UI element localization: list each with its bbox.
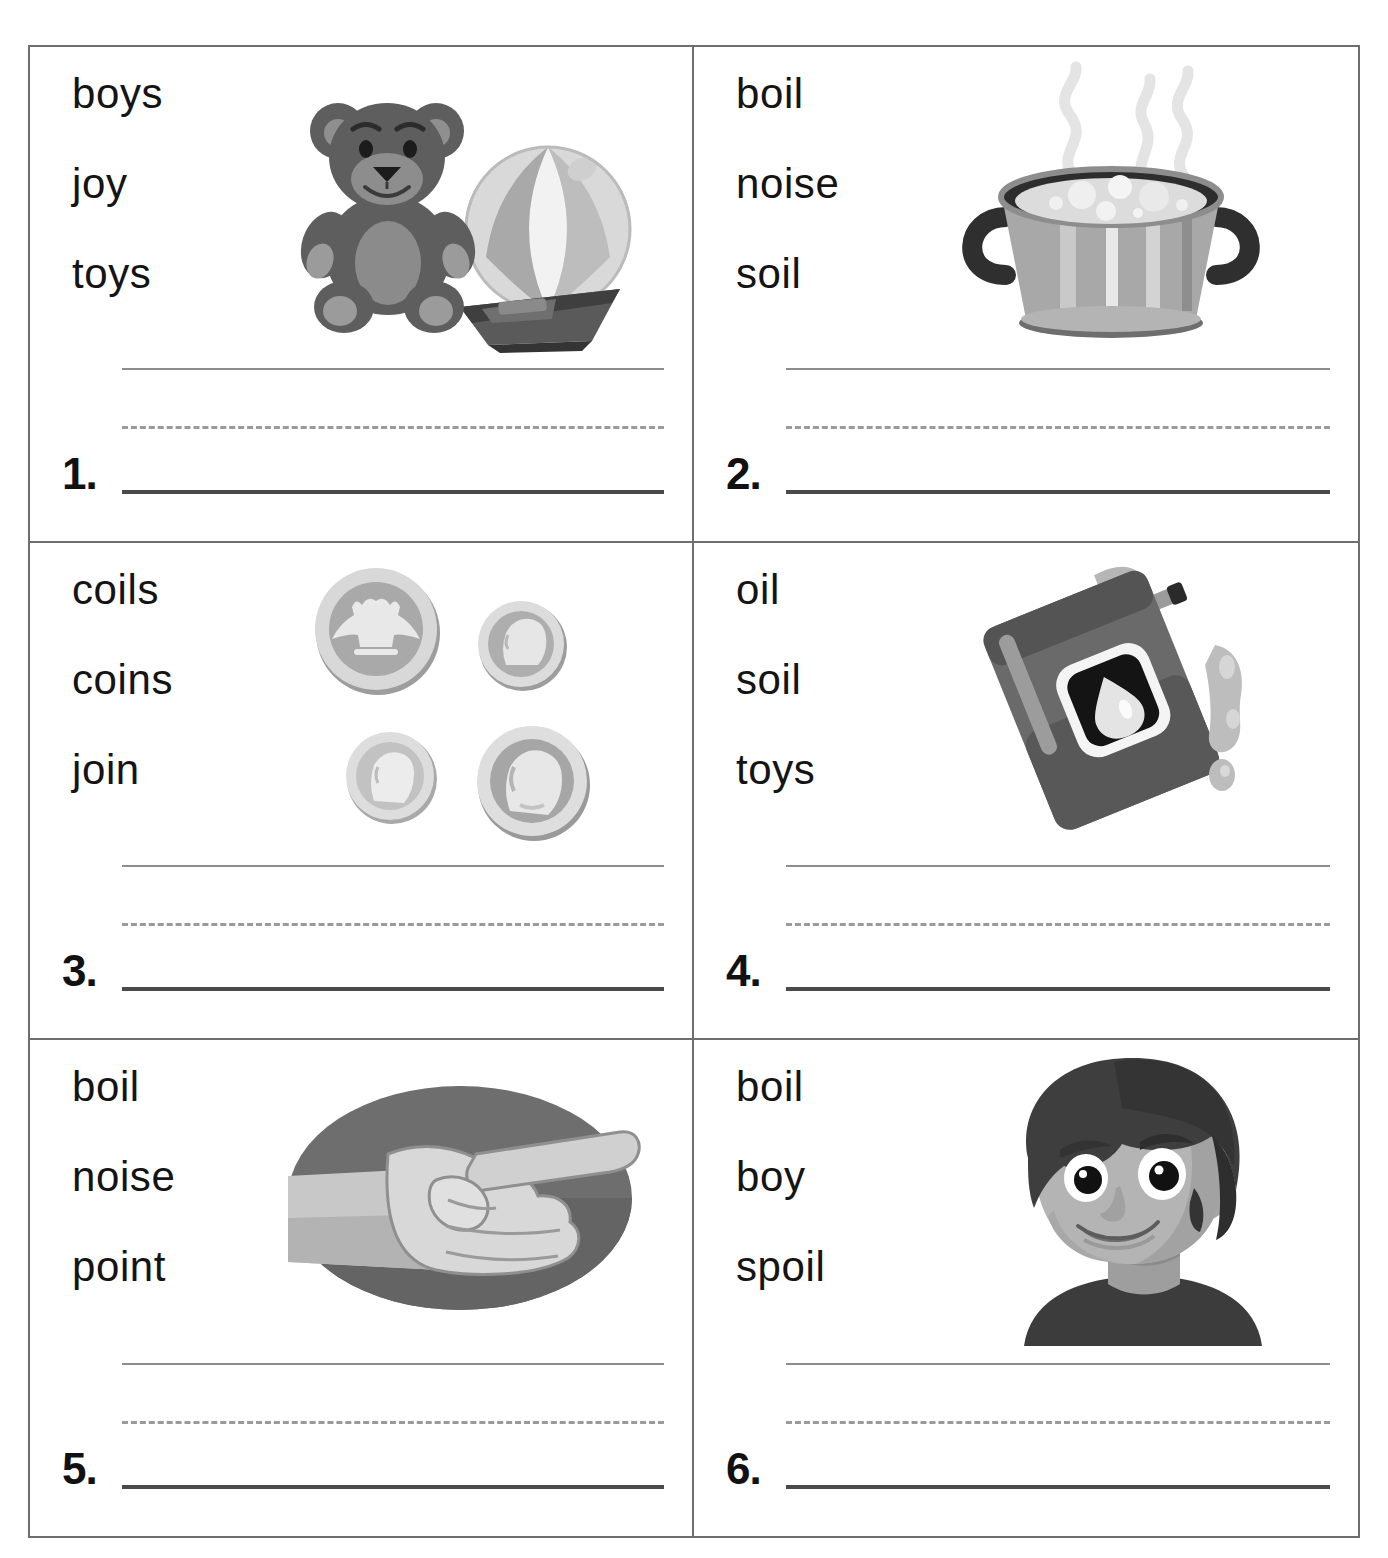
dashed-guide-line	[122, 426, 664, 429]
word-option[interactable]: boil	[736, 1066, 946, 1128]
question-number: 6.	[726, 1447, 761, 1491]
oil-can-illustration	[924, 553, 1338, 853]
word-option[interactable]: toys	[736, 749, 946, 811]
writing-lines-2: 2.	[786, 368, 1330, 523]
word-option[interactable]: toys	[72, 253, 282, 315]
dashed-guide-line	[122, 1421, 664, 1424]
question-number: 3.	[62, 949, 97, 993]
worksheet-cell-2: boil noise soil	[694, 47, 1358, 543]
answer-line[interactable]	[786, 1485, 1330, 1489]
worksheet-cell-6: boil boy spoil	[694, 1040, 1358, 1536]
answer-line[interactable]	[122, 1485, 664, 1489]
worksheet-cell-5: boil noise point	[30, 1040, 694, 1536]
answer-line[interactable]	[786, 490, 1330, 494]
word-option[interactable]: coils	[72, 569, 282, 631]
dashed-guide-line	[786, 1421, 1330, 1424]
word-choice-list-5: boil noise point	[72, 1066, 282, 1308]
answer-line[interactable]	[786, 987, 1330, 991]
top-guide-line	[122, 865, 664, 867]
dashed-guide-line	[122, 923, 664, 926]
question-number: 1.	[62, 452, 97, 496]
pointing-hand-illustration	[260, 1050, 672, 1350]
top-guide-line	[786, 368, 1330, 370]
top-guide-line	[786, 865, 1330, 867]
writing-lines-5: 5.	[122, 1363, 664, 1518]
answer-line[interactable]	[122, 490, 664, 494]
word-option[interactable]: boy	[736, 1156, 946, 1218]
word-option[interactable]: join	[72, 749, 282, 811]
teddy-bear-ball-boat-illustration	[260, 57, 672, 357]
writing-lines-4: 4.	[786, 865, 1330, 1020]
word-choice-list-6: boil boy spoil	[736, 1066, 946, 1308]
question-number: 4.	[726, 949, 761, 993]
dashed-guide-line	[786, 923, 1330, 926]
top-guide-line	[786, 1363, 1330, 1365]
question-number: 5.	[62, 1447, 97, 1491]
word-option[interactable]: joy	[72, 163, 282, 225]
word-option[interactable]: point	[72, 1246, 282, 1308]
writing-lines-1: 1.	[122, 368, 664, 523]
worksheet-cell-3: coils coins join	[30, 543, 694, 1039]
word-choice-list-4: oil soil toys	[736, 569, 946, 811]
answer-line[interactable]	[122, 987, 664, 991]
word-option[interactable]: noise	[72, 1156, 282, 1218]
top-guide-line	[122, 1363, 664, 1365]
writing-lines-3: 3.	[122, 865, 664, 1020]
word-choice-list-3: coils coins join	[72, 569, 282, 811]
word-option[interactable]: boys	[72, 73, 282, 135]
word-option[interactable]: coins	[72, 659, 282, 721]
worksheet-grid: boys joy toys	[28, 45, 1360, 1538]
worksheet-cell-1: boys joy toys	[30, 47, 694, 543]
worksheet-cell-4: oil soil toys	[694, 543, 1358, 1039]
word-option[interactable]: spoil	[736, 1246, 946, 1308]
boy-face-illustration	[924, 1050, 1338, 1350]
word-option[interactable]: oil	[736, 569, 946, 631]
top-guide-line	[122, 368, 664, 370]
word-choice-list-1: boys joy toys	[72, 73, 282, 315]
coins-illustration	[260, 553, 672, 853]
writing-lines-6: 6.	[786, 1363, 1330, 1518]
word-option[interactable]: boil	[72, 1066, 282, 1128]
dashed-guide-line	[786, 426, 1330, 429]
word-option[interactable]: soil	[736, 659, 946, 721]
question-number: 2.	[726, 452, 761, 496]
boiling-pot-illustration	[924, 57, 1338, 357]
